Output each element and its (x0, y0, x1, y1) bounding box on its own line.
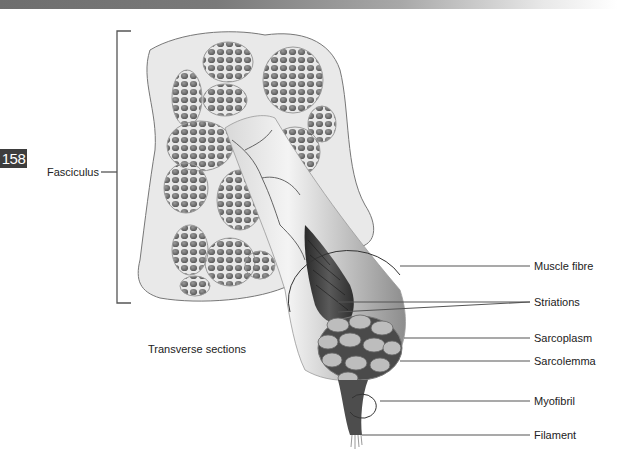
label-sarcolemma: Sarcolemma (534, 355, 596, 368)
muscle-structure-illustration (0, 0, 617, 468)
label-myofibril: Myofibril (534, 395, 575, 408)
fasciculus-bracket (101, 31, 131, 303)
label-sarcoplasm: Sarcoplasm (534, 332, 592, 345)
label-striations: Striations (534, 296, 580, 309)
label-filament: Filament (534, 429, 576, 442)
label-transverse-sections: Transverse sections (148, 343, 246, 356)
myofibril-strand (338, 380, 368, 435)
label-fasciculus: Fasciculus (47, 166, 99, 179)
label-muscle-fibre: Muscle fibre (534, 260, 593, 273)
